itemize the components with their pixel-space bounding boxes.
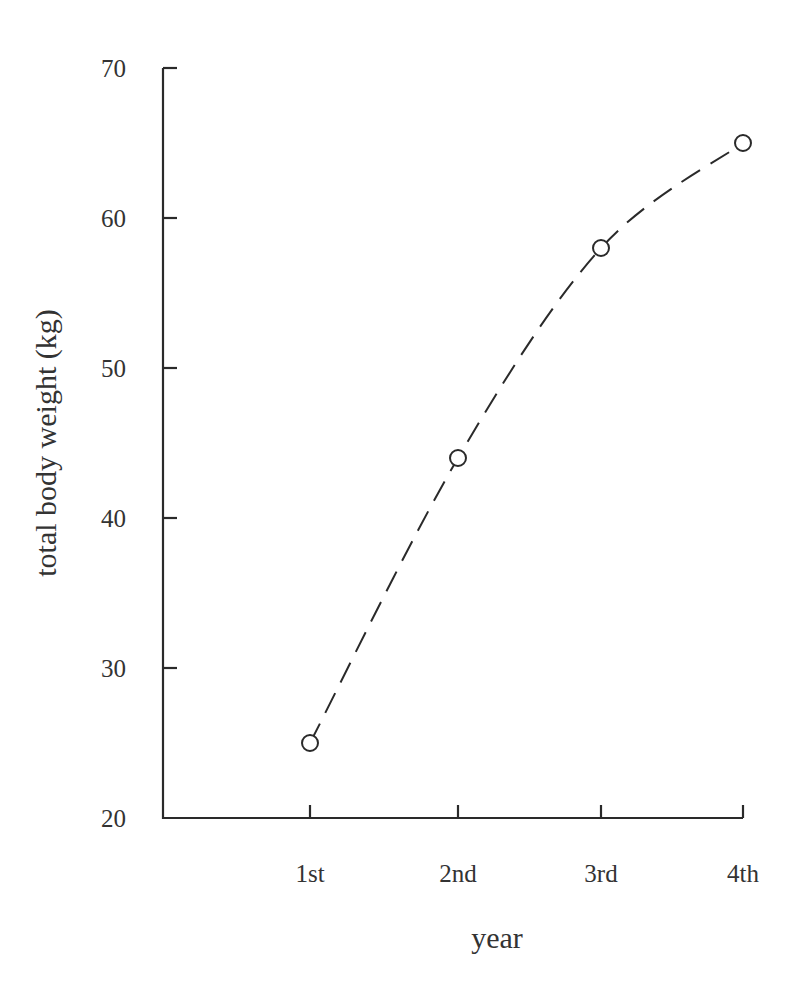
y-tick-label: 60 xyxy=(101,205,126,232)
y-axis-label: total body weight (kg) xyxy=(29,309,63,576)
x-axis-label: year xyxy=(471,921,523,954)
line-chart: 203040506070 1st2nd3rd4th total body wei… xyxy=(0,0,796,1002)
y-axis-ticks: 203040506070 xyxy=(101,55,177,832)
y-tick-label: 50 xyxy=(101,355,126,382)
x-tick-label: 2nd xyxy=(439,860,477,887)
y-tick-label: 40 xyxy=(101,505,126,532)
x-tick-label: 4th xyxy=(727,860,759,887)
data-point-circle-icon xyxy=(450,450,466,466)
y-tick-label: 30 xyxy=(101,655,126,682)
y-tick-label: 70 xyxy=(101,55,126,82)
data-markers xyxy=(302,135,751,751)
x-tick-label: 3rd xyxy=(584,860,618,887)
x-tick-label: 1st xyxy=(295,860,324,887)
data-point-circle-icon xyxy=(735,135,751,151)
axis-lines xyxy=(163,68,743,818)
data-point-circle-icon xyxy=(593,240,609,256)
y-tick-label: 20 xyxy=(101,805,126,832)
series-line xyxy=(310,143,743,743)
data-point-circle-icon xyxy=(302,735,318,751)
